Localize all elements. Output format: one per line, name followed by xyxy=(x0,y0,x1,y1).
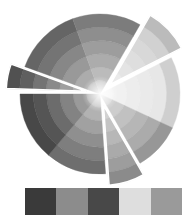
color-swatch xyxy=(25,188,56,215)
center-glow xyxy=(82,76,118,112)
color-swatch xyxy=(119,188,150,215)
color-swatch-row xyxy=(25,188,182,215)
color-wheel-illustration xyxy=(0,0,196,185)
color-swatch xyxy=(151,188,182,215)
color-swatch xyxy=(88,188,119,215)
color-swatch xyxy=(56,188,87,215)
